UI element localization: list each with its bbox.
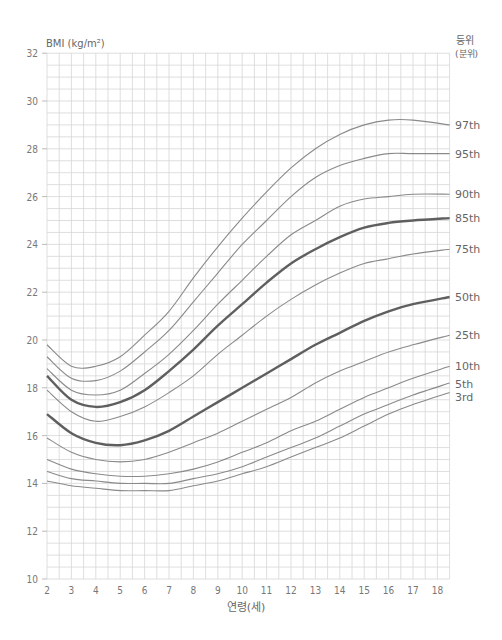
x-tick-label: 9: [215, 585, 221, 596]
x-tick-label: 14: [334, 585, 346, 596]
legend-title-line2: (분위): [455, 49, 478, 59]
curve-75th: [47, 249, 450, 421]
y-axis-label: BMI (kg/m²): [46, 38, 105, 49]
y-tick-label: 26: [27, 192, 39, 203]
percentile-label-50th: 50th: [455, 291, 480, 304]
y-tick-label: 10: [27, 574, 39, 585]
percentile-label-95th: 95th: [455, 148, 480, 161]
curve-95th: [47, 153, 450, 381]
curve-50th: [47, 297, 450, 445]
percentile-label-10th: 10th: [455, 360, 480, 373]
x-tick-label: 3: [69, 585, 75, 596]
y-tick-label: 18: [27, 383, 39, 394]
percentile-label-5th: 5th: [455, 378, 473, 391]
percentile-label-3rd: 3rd: [455, 391, 473, 404]
percentile-label-75th: 75th: [455, 243, 480, 256]
x-tick-label: 10: [236, 585, 248, 596]
curve-5th: [47, 383, 450, 484]
x-axis-ticks: 23456789101112131415161718: [44, 585, 443, 596]
x-tick-label: 17: [407, 585, 418, 596]
x-tick-label: 6: [142, 585, 148, 596]
x-tick-label: 13: [310, 585, 321, 596]
x-tick-label: 18: [432, 585, 444, 596]
x-tick-label: 11: [261, 585, 272, 596]
x-tick-label: 7: [166, 585, 172, 596]
x-tick-label: 5: [117, 585, 123, 596]
x-tick-label: 8: [191, 585, 197, 596]
y-tick-label: 28: [27, 144, 39, 155]
y-tick-label: 20: [27, 335, 39, 346]
x-tick-label: 16: [383, 585, 395, 596]
x-axis-label: 연령(세): [227, 601, 266, 614]
x-tick-label: 12: [285, 585, 296, 596]
x-tick-label: 4: [93, 585, 99, 596]
chart-grid: [47, 53, 450, 579]
curve-3rd: [47, 393, 450, 491]
bmi-percentile-chart: 101214161820222426283032 234567891011121…: [0, 0, 502, 640]
curve-85th: [47, 218, 450, 407]
y-tick-label: 22: [27, 287, 38, 298]
curve-90th: [47, 194, 450, 395]
y-tick-label: 24: [27, 239, 39, 250]
y-tick-label: 14: [27, 478, 39, 489]
y-tick-label: 12: [27, 526, 38, 537]
percentile-label-90th: 90th: [455, 188, 480, 201]
percentile-label-85th: 85th: [455, 212, 480, 225]
percentile-labels: 97th95th90th85th75th50th25th10th5th3rd: [455, 119, 480, 404]
x-tick-label: 15: [358, 585, 369, 596]
percentile-label-97th: 97th: [455, 119, 480, 132]
y-tick-label: 16: [27, 431, 39, 442]
curve-25th: [47, 335, 450, 462]
x-tick-label: 2: [44, 585, 50, 596]
y-tick-label: 30: [27, 96, 39, 107]
percentile-label-25th: 25th: [455, 329, 480, 342]
legend-title-line1: 등위: [456, 34, 474, 46]
y-axis-ticks: 101214161820222426283032: [27, 48, 47, 585]
y-tick-label: 32: [27, 48, 38, 59]
